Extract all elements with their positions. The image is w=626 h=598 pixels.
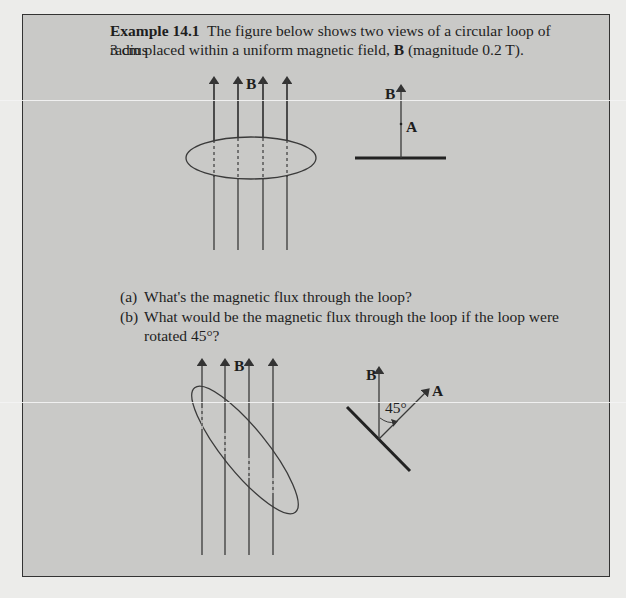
question-b-text-2: rotated 45°?: [144, 326, 220, 345]
scan-glare-2: [0, 402, 626, 403]
figure1-loop: [186, 137, 316, 179]
figure1-field-label: B: [246, 74, 256, 93]
question-a-marker: (a): [120, 287, 137, 306]
question-b-marker: (b): [120, 307, 138, 326]
figure2-area-label: A: [432, 381, 443, 400]
figure2-side-field-label: B: [366, 365, 376, 384]
figure2-field-label: B: [234, 356, 244, 375]
figure2-loop: [178, 374, 313, 526]
figure2-angle-label: 45°: [385, 398, 407, 417]
question-b-text: What would be the magnetic flux through …: [144, 307, 559, 326]
scan-glare-1: [0, 100, 626, 101]
question-a-text: What's the magnetic flux through the loo…: [144, 287, 412, 306]
figure1-area-label: A: [406, 117, 417, 136]
